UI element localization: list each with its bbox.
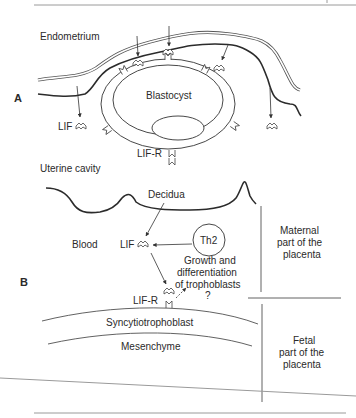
growth-label-line2: differentiation bbox=[177, 267, 237, 278]
arrow-icon bbox=[137, 36, 138, 56]
syncytio-label: Syncytiotrophoblast bbox=[106, 317, 193, 328]
lif-receptor-icon bbox=[169, 158, 175, 165]
th2-label: Th2 bbox=[200, 235, 218, 246]
lif-receptor-icon bbox=[166, 301, 172, 308]
lif-ligand-icon bbox=[267, 123, 277, 129]
maternal-label-line2: part of the bbox=[277, 237, 322, 248]
growth-label-line1: Growth and bbox=[184, 255, 236, 266]
maternal-label-line3: placenta bbox=[283, 249, 321, 260]
question-mark: ? bbox=[205, 290, 211, 301]
slanted-rule bbox=[0, 378, 356, 396]
arrow-icon bbox=[77, 86, 80, 117]
lif-label-b: LIF bbox=[120, 239, 134, 250]
fetal-label-line2: part of the bbox=[279, 347, 324, 358]
blastocyst-label: Blastocyst bbox=[146, 90, 192, 101]
mesenchyme-label: Mesenchyme bbox=[121, 341, 181, 352]
lif-receptor-icon bbox=[230, 122, 239, 131]
lif-r-label-b: LIF-R bbox=[133, 295, 158, 306]
arrow-icon bbox=[222, 45, 228, 60]
lif-receptor-icon bbox=[169, 150, 175, 157]
lif-ligand-icon bbox=[76, 123, 86, 129]
fetal-label-line1: Fetal bbox=[293, 335, 315, 346]
blood-label: Blood bbox=[72, 239, 98, 250]
lif-ligand-icon bbox=[214, 65, 224, 71]
lif-ligand-icon bbox=[133, 60, 143, 66]
lif-placenta-diagram: A Endometrium Blastocyst LIF LIF-R Uteri… bbox=[0, 0, 356, 418]
panel-b-label: B bbox=[20, 276, 28, 288]
lif-ligand-icon bbox=[164, 288, 174, 294]
panel-a-label: A bbox=[14, 92, 22, 104]
arrow-icon bbox=[153, 244, 192, 245]
lif-r-label-a: LIF-R bbox=[137, 148, 162, 159]
uterine-cavity-label: Uterine cavity bbox=[40, 163, 101, 174]
arrow-icon bbox=[151, 253, 166, 284]
lif-label-a: LIF bbox=[58, 121, 72, 132]
lif-ligand-icon bbox=[138, 241, 148, 247]
decidua-label: Decidua bbox=[148, 189, 185, 200]
endometrium-label: Endometrium bbox=[40, 31, 99, 42]
fetal-label-line3: placenta bbox=[283, 359, 321, 370]
growth-label-line3: of trophoblasts bbox=[175, 279, 241, 290]
maternal-label-line1: Maternal bbox=[280, 225, 319, 236]
arrow-icon bbox=[270, 88, 271, 118]
